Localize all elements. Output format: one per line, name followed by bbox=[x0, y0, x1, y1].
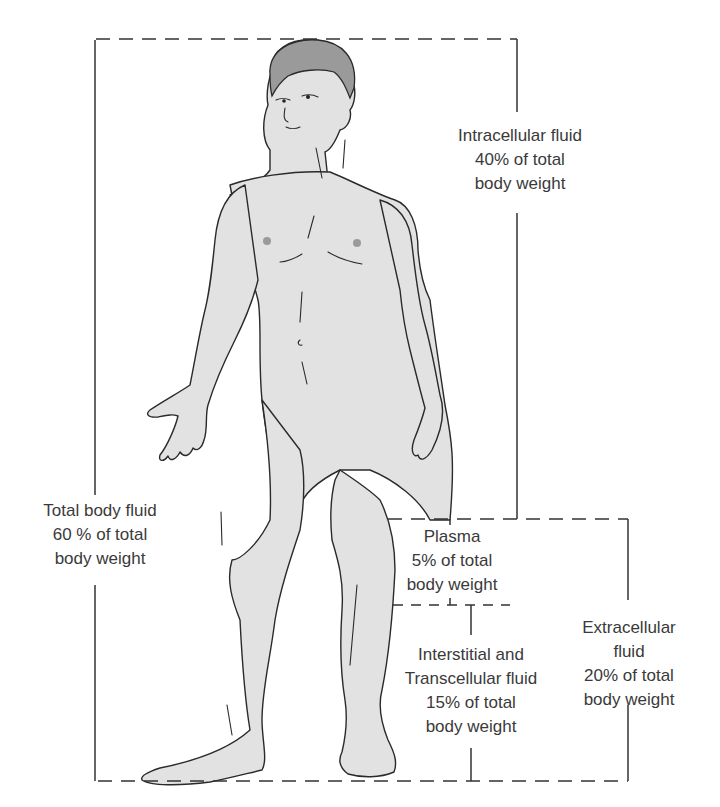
interstitial-fluid-label: Interstitial and Transcellular fluid 15%… bbox=[380, 643, 562, 739]
intracellular-label-line1: Intracellular fluid bbox=[425, 124, 615, 148]
plasma-label-line3: body weight bbox=[390, 573, 514, 597]
interstitial-label-line3: 15% of total bbox=[380, 691, 562, 715]
body-fluid-diagram: Intracellular fluid 40% of total body we… bbox=[0, 0, 720, 807]
total-label-line2: 60 % of total bbox=[10, 523, 190, 547]
plasma-label-line2: 5% of total bbox=[390, 549, 514, 573]
interstitial-label-line4: body weight bbox=[380, 715, 562, 739]
total-label-line1: Total body fluid bbox=[10, 499, 190, 523]
intracellular-label-line2: 40% of total bbox=[425, 148, 615, 172]
plasma-label: Plasma 5% of total body weight bbox=[390, 525, 514, 597]
extracellular-fluid-label: Extracellular fluid 20% of total body we… bbox=[565, 616, 693, 712]
interstitial-label-line2: Transcellular fluid bbox=[380, 667, 562, 691]
plasma-label-line1: Plasma bbox=[390, 525, 514, 549]
intracellular-label-line3: body weight bbox=[425, 172, 615, 196]
total-label-line3: body weight bbox=[10, 547, 190, 571]
extracellular-label-line2: fluid bbox=[565, 640, 693, 664]
intracellular-fluid-label: Intracellular fluid 40% of total body we… bbox=[425, 124, 615, 196]
extracellular-label-line1: Extracellular bbox=[565, 616, 693, 640]
interstitial-label-line1: Interstitial and bbox=[380, 643, 562, 667]
total-body-fluid-label: Total body fluid 60 % of total body weig… bbox=[10, 499, 190, 571]
extracellular-label-line3: 20% of total bbox=[565, 664, 693, 688]
extracellular-label-line4: body weight bbox=[565, 688, 693, 712]
